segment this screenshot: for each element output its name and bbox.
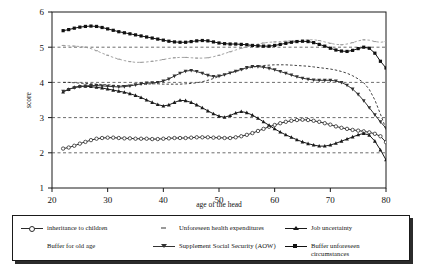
data-point-marker	[279, 122, 282, 125]
legend-marker-down-triangle	[161, 244, 167, 248]
data-point-marker	[112, 136, 115, 139]
data-point-marker	[134, 137, 137, 140]
legend-item[interactable]: Buffer unforeseen circumstances	[285, 242, 369, 257]
y-tick-label: 4	[40, 78, 45, 88]
legend-item[interactable]: inheritance to children	[21, 224, 107, 232]
legend-swatch	[21, 224, 43, 232]
data-point-marker	[368, 47, 371, 50]
data-point-marker	[156, 137, 159, 140]
data-point-marker	[61, 147, 64, 150]
data-point-marker	[95, 25, 98, 28]
data-point-marker	[262, 42, 265, 43]
data-point-marker	[206, 57, 209, 58]
y-axis-ticks: 123456	[40, 7, 53, 193]
data-point-marker	[373, 52, 376, 55]
legend-label: Buffer for old age	[47, 242, 95, 250]
data-point-marker	[184, 57, 187, 58]
data-point-marker	[245, 133, 248, 136]
x-axis-title: age of the head	[196, 200, 242, 209]
data-point-marker	[162, 59, 165, 60]
data-point-marker	[351, 128, 354, 131]
data-point-marker	[84, 47, 87, 48]
data-point-marker	[262, 127, 265, 130]
data-point-marker	[112, 29, 115, 32]
data-point-marker	[100, 136, 103, 139]
data-point-marker	[212, 136, 215, 139]
data-point-marker	[240, 135, 243, 138]
data-point-marker	[218, 55, 221, 56]
data-point-marker	[373, 132, 376, 135]
legend-swatch	[285, 242, 307, 250]
y-tick-label: 5	[40, 43, 45, 53]
data-point-marker	[295, 118, 298, 121]
data-point-marker	[329, 123, 332, 126]
data-point-marker	[251, 44, 254, 47]
data-point-marker	[318, 40, 321, 41]
data-point-marker	[206, 136, 209, 139]
data-point-marker	[134, 33, 137, 36]
legend-item[interactable]: Job uncertainty	[285, 224, 352, 232]
data-point-marker	[228, 136, 231, 139]
y-tick-label: 1	[40, 183, 45, 193]
data-point-marker	[362, 39, 365, 40]
x-tick-label: 70	[326, 195, 336, 205]
x-tick-label: 60	[270, 195, 280, 205]
data-point-marker	[356, 129, 359, 132]
data-point-marker	[195, 39, 198, 42]
legend-grid: inheritance to childrenUnforeseen health…	[13, 216, 409, 260]
legend-label: Buffer unforeseen circumstances	[311, 242, 369, 257]
legend-item[interactable]: Supplement Social Security (AOW)	[153, 242, 276, 250]
data-point-marker	[362, 46, 365, 49]
legend-item[interactable]: Buffer for old age	[21, 242, 95, 250]
data-point-marker	[117, 30, 120, 33]
data-point-marker	[78, 142, 81, 145]
data-point-marker	[373, 41, 376, 42]
legend-swatch	[285, 224, 307, 232]
data-point-marker	[101, 26, 104, 29]
data-point-marker	[323, 45, 326, 48]
data-point-marker	[84, 25, 87, 28]
data-point-marker	[178, 41, 181, 44]
data-point-marker	[234, 42, 237, 45]
data-point-marker	[273, 44, 276, 47]
data-point-marker	[340, 44, 343, 45]
data-point-marker	[273, 41, 276, 42]
data-point-marker	[340, 126, 343, 129]
data-point-marker	[295, 40, 298, 43]
chart-legend: inheritance to childrenUnforeseen health…	[12, 215, 410, 261]
data-point-marker	[123, 31, 126, 34]
data-point-marker	[117, 59, 120, 60]
y-tick-label: 2	[40, 148, 45, 158]
data-point-marker	[173, 40, 176, 43]
plot-frame	[52, 12, 386, 188]
data-point-marker	[151, 61, 154, 62]
data-point-marker	[318, 43, 321, 46]
legend-label: Unforeseen health expenditures	[179, 224, 264, 232]
data-point-marker	[178, 136, 181, 139]
data-point-marker	[312, 41, 315, 44]
data-point-marker	[229, 51, 232, 52]
data-point-marker	[206, 39, 209, 42]
data-point-marker	[201, 136, 204, 139]
legend-marker-filled-square	[293, 244, 297, 248]
data-point-marker	[139, 34, 142, 37]
data-point-marker	[345, 127, 348, 130]
data-point-marker	[84, 140, 87, 143]
data-point-marker	[117, 136, 120, 139]
plot-area: 123456 20304050607080 age of the head sc…	[0, 0, 423, 212]
x-tick-label: 30	[103, 195, 113, 205]
data-point-marker	[167, 137, 170, 140]
data-point-marker	[329, 43, 332, 44]
legend-item[interactable]: Unforeseen health expenditures	[153, 224, 264, 232]
data-point-marker	[123, 137, 126, 140]
data-point-marker	[140, 62, 143, 63]
data-point-marker	[290, 41, 293, 44]
data-point-marker	[290, 119, 293, 122]
data-point-marker	[106, 55, 109, 56]
data-point-marker	[223, 42, 226, 45]
legend-swatch	[153, 242, 175, 250]
data-point-marker	[273, 123, 276, 126]
legend-marker-filled-triangle	[293, 226, 299, 230]
legend-marker-dash	[161, 227, 166, 229]
data-point-marker	[195, 58, 198, 59]
